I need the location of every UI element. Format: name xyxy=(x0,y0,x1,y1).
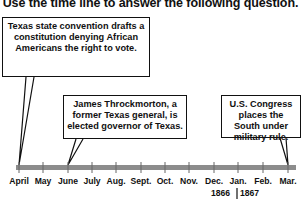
year-label-1867: 1867 xyxy=(240,188,259,198)
month-label: Sept. xyxy=(130,176,151,186)
month-label: Nov. xyxy=(180,176,198,186)
month-label: May xyxy=(35,176,52,186)
year-label-1866: 1866 xyxy=(211,188,230,198)
month-label: July xyxy=(83,176,100,186)
month-label: Dec. xyxy=(205,176,223,186)
month-label: Jan. xyxy=(229,176,246,186)
month-label: Aug. xyxy=(106,176,125,186)
timeline-ticks xyxy=(0,0,301,200)
month-label: April xyxy=(9,176,29,186)
month-label: June xyxy=(58,176,78,186)
month-label: Oct. xyxy=(157,176,174,186)
month-label: Feb. xyxy=(254,176,272,186)
month-label: Mar. xyxy=(279,176,296,186)
